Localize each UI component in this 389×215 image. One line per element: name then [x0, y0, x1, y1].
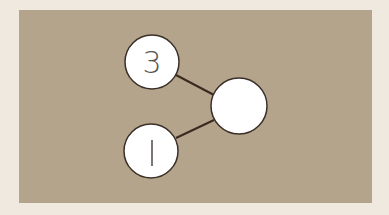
edge-top-to-whole	[176, 75, 214, 95]
node-part-top: 3	[125, 35, 179, 89]
node-part-top-label: 3	[142, 45, 161, 80]
node-whole[interactable]	[211, 78, 267, 134]
node-part-bottom: 1	[124, 124, 178, 178]
node-part-bottom-label: 1	[141, 134, 160, 169]
edge-bottom-to-whole	[176, 120, 214, 138]
number-bond-diagram: 3 1	[0, 0, 389, 215]
